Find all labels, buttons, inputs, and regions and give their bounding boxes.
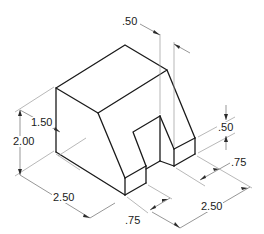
ext-left-top [15,87,54,112]
front-slant-edge [98,113,125,178]
arrow-top-left [153,30,160,35]
dim-label-left-total: 2.00 [12,136,35,147]
arrow-right-notch-a [200,175,206,180]
dim-label-bottom-front: .75 [124,215,141,226]
dim-label-bottom-left: 2.50 [52,192,75,203]
ext-bottom-left [56,154,80,170]
dim-label-top-offset: .50 [121,16,138,27]
dim-label-bottom-right: 2.50 [200,201,223,212]
notch-right-slant [160,116,174,149]
front-step-bottom [125,183,146,195]
top-face [56,45,167,113]
notch-floor-right [160,161,174,166]
ext-bottom-step [148,185,172,199]
arrow-bottom-right-a [174,222,180,228]
right-step-top [174,138,195,149]
ext-bottom-notch [176,168,205,186]
drawing-canvas: .50 1.50 2.00 .50 .75 2.50 .75 2.50 [0,0,264,234]
ext-left-mid [58,138,86,156]
arrow-right-top [224,114,228,120]
dim-label-right-step: .50 [217,122,234,133]
dim-label-right-notch: .75 [230,157,247,168]
front-step-top [125,166,146,178]
arrow-top-right [174,44,180,49]
notch-left-face [133,116,160,166]
arrow-bottom-front-b [162,199,168,202]
arrow-bottom-left-end [83,214,90,218]
dim-bottom-left-ext [90,203,115,218]
arrow-1.50 [54,127,60,132]
right-step-bottom [174,154,195,166]
notch-floor-front [146,161,160,169]
ext-bottom-front [127,197,148,213]
bottom-left-edge [56,152,125,195]
arrow-bottom-front-a [150,205,156,210]
ext-right-bottom [198,133,235,153]
right-slant-edge [167,70,195,138]
dim-label-left-partial: 1.50 [30,117,53,128]
